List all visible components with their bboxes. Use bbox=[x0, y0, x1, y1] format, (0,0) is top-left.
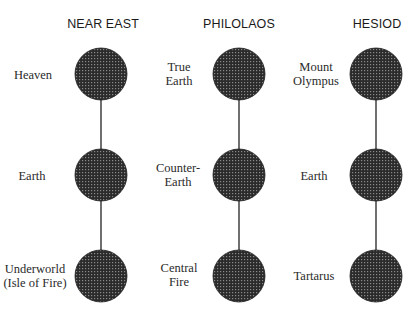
label-tartarus: Tartarus bbox=[269, 269, 359, 283]
node-heaven bbox=[75, 48, 127, 100]
label-earth: Earth bbox=[0, 169, 77, 183]
label-true-earth: True Earth bbox=[134, 60, 224, 88]
node-earth bbox=[75, 149, 127, 201]
label-central-fire: Central Fire bbox=[134, 261, 224, 289]
column-title-hesiod: HESIOD bbox=[317, 17, 413, 31]
label-earth: Earth bbox=[269, 169, 359, 183]
column-title-near-east: NEAR EAST bbox=[43, 17, 163, 31]
label-counter-earth: Counter- Earth bbox=[133, 161, 223, 189]
label-underworld: Underworld (Isle of Fire) bbox=[0, 262, 80, 290]
label-mount-olympus: Mount Olympus bbox=[271, 60, 361, 88]
label-heaven: Heaven bbox=[0, 68, 78, 82]
column-near-east-graph bbox=[75, 48, 127, 302]
node-underworld bbox=[75, 250, 127, 302]
column-title-philolaos: PHILOLAOS bbox=[179, 17, 299, 31]
cosmology-comparison-diagram: NEAR EAST PHILOLAOS HESIOD Heaven Earth … bbox=[0, 0, 413, 313]
